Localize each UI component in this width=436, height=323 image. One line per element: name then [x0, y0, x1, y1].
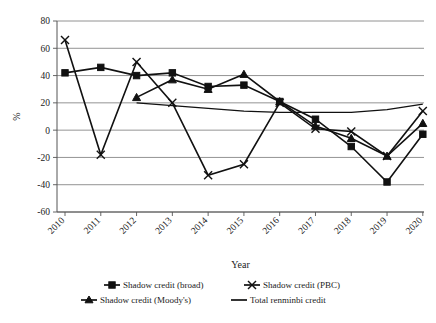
y-tick-label: 20	[41, 98, 51, 108]
y-tick-label: -40	[37, 180, 50, 190]
line-chart: 806040200-20-40-60 201020112012201320142…	[0, 0, 436, 323]
legend-label: Shadow credit (Moody's)	[100, 295, 191, 305]
series-1	[62, 64, 426, 185]
legend-item: Shadow credit (PBC)	[244, 280, 340, 290]
x-tick-label: 2014	[189, 215, 210, 236]
series-3	[133, 70, 427, 159]
data-point-marker	[133, 93, 141, 100]
x-tick-label: 2020	[404, 215, 425, 236]
data-point-marker	[419, 119, 427, 126]
data-point-marker	[168, 76, 176, 83]
x-tick-label: 2017	[296, 215, 317, 236]
legend-label: Shadow credit (PBC)	[263, 280, 340, 290]
axes	[53, 21, 424, 216]
legend-label: Shadow credit (broad)	[123, 280, 203, 290]
y-tick-label: 40	[41, 71, 51, 81]
gridlines	[57, 21, 424, 212]
legend-item: Shadow credit (Moody's)	[81, 295, 191, 305]
y-tick-label: -20	[37, 153, 50, 163]
y-axis-title: %	[11, 112, 22, 120]
x-tick-label: 2015	[225, 215, 246, 236]
y-tick-label: 60	[41, 44, 51, 54]
legend-item: Total renminbi credit	[231, 295, 326, 305]
legend-square-marker	[109, 282, 115, 288]
x-axis-title: Year	[231, 259, 250, 270]
data-point-marker	[240, 70, 248, 77]
data-point-marker	[133, 72, 139, 78]
chart-legend: Shadow credit (broad)Shadow credit (PBC)…	[81, 280, 340, 305]
x-tick-label: 2013	[153, 215, 174, 236]
data-point-marker	[241, 82, 247, 88]
series-polyline	[137, 74, 423, 156]
series-polyline	[65, 40, 423, 175]
x-tick-label: 2011	[82, 215, 102, 235]
x-tick-label: 2018	[332, 215, 353, 236]
data-point-marker	[62, 70, 68, 76]
x-tick-label: 2012	[117, 215, 138, 236]
legend-item: Shadow credit (broad)	[104, 280, 203, 290]
legend-label: Total renminbi credit	[250, 295, 326, 305]
chart-container: 806040200-20-40-60 201020112012201320142…	[0, 0, 436, 323]
x-tick-label: 2016	[261, 215, 282, 236]
x-axis-tick-labels: 2010201120122013201420152016201720182019…	[46, 215, 425, 236]
x-tick-label: 2019	[368, 215, 389, 236]
data-point-marker	[420, 131, 426, 137]
y-tick-label: 80	[41, 16, 51, 26]
y-axis-tick-labels: 806040200-20-40-60	[37, 16, 50, 217]
data-point-marker	[348, 143, 354, 149]
series-layer	[61, 36, 427, 185]
y-tick-label: -60	[37, 207, 50, 217]
data-point-marker	[98, 64, 104, 70]
data-point-marker	[384, 179, 390, 185]
x-tick-label: 2010	[46, 215, 67, 236]
y-tick-label: 0	[45, 126, 50, 136]
